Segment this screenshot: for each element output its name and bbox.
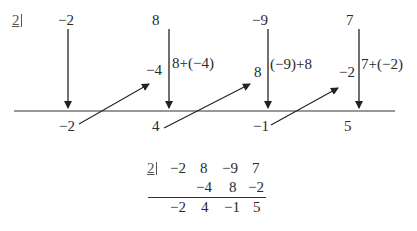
table-r1-c1: −2 (170, 161, 186, 176)
table-r1-c2: 8 (200, 161, 208, 176)
table-r2-c3: 8 (229, 180, 237, 195)
annotation-1: 8+(−4) (172, 56, 214, 71)
divisor-box: 2 (12, 13, 22, 28)
table-r1-c3: −9 (222, 161, 238, 176)
table-r2-c2: −4 (196, 180, 212, 195)
coefficient-4: 7 (346, 13, 354, 28)
table-r3-c2: 4 (201, 200, 209, 215)
table-sum-line (148, 197, 266, 198)
result-3: −1 (253, 119, 269, 134)
coefficient-1: −2 (58, 13, 74, 28)
table-r3-c1: −2 (170, 200, 186, 215)
table-divisor-value: 2 (147, 160, 155, 176)
divisor-value: 2 (12, 12, 20, 28)
result-4: 5 (344, 119, 352, 134)
result-1: −2 (59, 119, 75, 134)
table-r1-c4: 7 (252, 161, 260, 176)
coefficient-3: −9 (252, 13, 268, 28)
arrow-diag-2 (164, 84, 250, 128)
annotation-3: 7+(−2) (361, 57, 403, 72)
arrow-diag-3 (271, 88, 338, 125)
arrow-diag-1 (79, 84, 149, 124)
table-r2-c4: −2 (248, 180, 264, 195)
product-1: −4 (146, 63, 162, 78)
product-2: 8 (254, 65, 262, 80)
result-2: 4 (152, 119, 160, 134)
annotation-2: (−9)+8 (270, 57, 312, 72)
table-r3-c4: 5 (253, 200, 261, 215)
coefficient-2: 8 (152, 13, 160, 28)
table-divisor-box: 2 (147, 161, 157, 176)
table-r3-c3: −1 (224, 200, 240, 215)
product-3: −2 (339, 65, 355, 80)
